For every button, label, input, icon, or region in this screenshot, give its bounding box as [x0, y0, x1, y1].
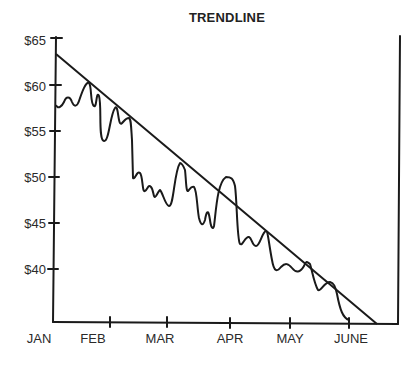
y-axis — [53, 37, 56, 322]
x-axis — [53, 322, 398, 324]
right-boundary-line — [398, 36, 400, 324]
price-line — [56, 83, 349, 320]
trendline — [56, 54, 377, 324]
chart-plot — [0, 0, 418, 368]
